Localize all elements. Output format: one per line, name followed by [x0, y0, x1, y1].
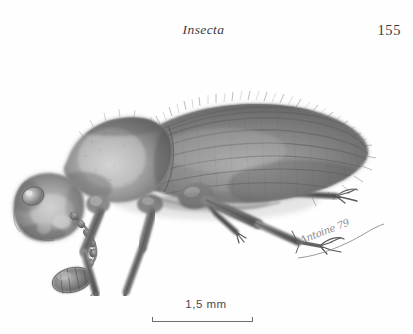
scale-bar-tick-right	[252, 317, 253, 322]
page-title: Insecta	[0, 22, 413, 38]
scale-bar-line	[152, 321, 253, 322]
scale-bar-tick-left	[152, 317, 153, 322]
artist-signature: Antoine 79	[296, 222, 388, 262]
book-page: Insecta 155	[0, 0, 413, 334]
page-number: 155	[377, 22, 401, 39]
scale-bar: 1,5 mm	[150, 298, 270, 326]
scale-bar-label: 1,5 mm	[150, 298, 262, 310]
running-head: Insecta 155	[0, 22, 413, 42]
scale-bar-rule	[152, 317, 253, 323]
